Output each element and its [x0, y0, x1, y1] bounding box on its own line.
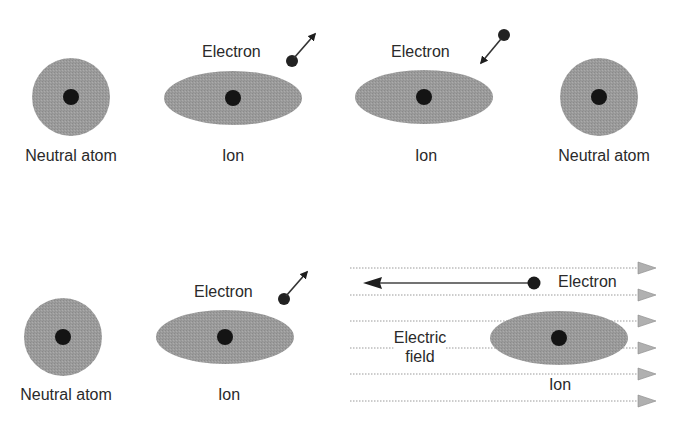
- field-arrow-icon: [638, 262, 656, 274]
- neutral-atom-label: Neutral atom: [20, 386, 112, 404]
- neutral-atom-label: Neutral atom: [25, 147, 117, 165]
- electron-icon: [286, 55, 298, 67]
- arrow-up-right-icon: [294, 34, 315, 58]
- neutral-atom-2: [560, 58, 638, 136]
- electron-label: Electron: [202, 43, 261, 61]
- ion-in-field: [490, 311, 628, 365]
- electron-icon: [528, 277, 541, 290]
- electron-label: Electron: [391, 43, 450, 61]
- nucleus-icon: [217, 329, 233, 345]
- nucleus-icon: [551, 330, 567, 346]
- ion-label: Ion: [222, 147, 244, 165]
- ion-1: [164, 71, 302, 125]
- electric-field-label: Electric field: [394, 328, 446, 366]
- electron-label: Electron: [556, 273, 619, 291]
- ion-label: Ion: [415, 147, 437, 165]
- nucleus-icon: [591, 89, 607, 105]
- ion-3: [156, 310, 294, 364]
- field-arrow-icon: [638, 368, 656, 380]
- arrow-up-right-icon: [286, 272, 307, 296]
- nucleus-icon: [225, 90, 241, 106]
- nucleus-icon: [416, 89, 432, 105]
- ion-2: [355, 70, 493, 124]
- field-arrow-icon: [638, 342, 656, 354]
- arrow-down-left-icon: [481, 39, 501, 63]
- field-arrowheads: [638, 262, 656, 407]
- electron-icon: [278, 293, 290, 305]
- electron-leaving-2: [278, 272, 307, 305]
- neutral-atom-1: [32, 58, 110, 136]
- electron-label: Electron: [194, 283, 253, 301]
- electron-in-field: [363, 277, 541, 290]
- electron-approaching: [481, 29, 510, 63]
- field-arrow-icon: [638, 395, 656, 407]
- ionization-diagram: [0, 0, 693, 445]
- arrow-left-icon: [363, 277, 382, 289]
- field-arrow-icon: [638, 315, 656, 327]
- ion-label: Ion: [218, 386, 240, 404]
- electron-leaving-1: [286, 34, 315, 67]
- ion-label: Ion: [547, 376, 573, 394]
- electric-field-label-line1: Electric: [394, 328, 446, 347]
- electric-field-label-line2: field: [394, 347, 446, 366]
- neutral-atom-label: Neutral atom: [558, 147, 650, 165]
- neutral-atom-3: [24, 298, 102, 376]
- nucleus-icon: [63, 89, 79, 105]
- field-arrow-icon: [638, 289, 656, 301]
- nucleus-icon: [55, 329, 71, 345]
